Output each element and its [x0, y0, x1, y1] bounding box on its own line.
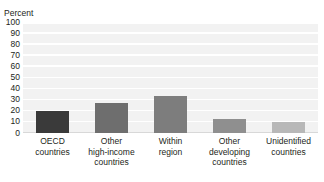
x-tick-label-line: Within	[141, 136, 200, 147]
x-tick-label: OECDcountries	[23, 136, 82, 157]
y-tick-label: 50	[0, 73, 20, 82]
x-tick-label-line: OECD	[23, 136, 82, 147]
x-tick-label: Otherdevelopingcountries	[200, 136, 259, 168]
y-tick-label: 70	[0, 51, 20, 60]
bar-series	[23, 22, 318, 133]
x-tick-label-line: countries	[82, 157, 141, 168]
y-tick-label: 90	[0, 29, 20, 38]
y-tick-label: 10	[0, 117, 20, 126]
x-tick-label-line: high-income	[82, 147, 141, 158]
x-tick-label-line: developing	[200, 147, 259, 158]
chart-figure: Percent 1009080706050403020100 OECDcount…	[0, 0, 324, 182]
x-tick-label-line: Unidentified	[259, 136, 318, 147]
y-tick-label: 80	[0, 40, 20, 49]
bar	[95, 103, 128, 133]
y-tick-label: 60	[0, 62, 20, 71]
y-axis-ticks: 1009080706050403020100	[0, 22, 20, 133]
bar	[272, 122, 305, 133]
bar	[36, 111, 69, 133]
x-tick-label: Otherhigh-incomecountries	[82, 136, 141, 168]
x-tick-label-line: region	[141, 147, 200, 158]
x-tick-label-line: countries	[259, 147, 318, 158]
y-tick-label: 40	[0, 84, 20, 93]
chart-title	[0, 0, 324, 1]
y-tick-label: 20	[0, 106, 20, 115]
x-tick-label-line: countries	[23, 147, 82, 158]
bar	[154, 96, 187, 133]
x-tick-label-line: Other	[82, 136, 141, 147]
y-tick-label: 100	[0, 18, 20, 27]
bar	[213, 119, 246, 133]
y-tick-label: 0	[0, 129, 20, 138]
x-tick-label-line: countries	[200, 157, 259, 168]
x-axis-categories: OECDcountriesOtherhigh-incomecountriesWi…	[23, 136, 318, 182]
x-tick-label: Withinregion	[141, 136, 200, 157]
x-tick-label-line: Other	[200, 136, 259, 147]
x-tick-label: Unidentifiedcountries	[259, 136, 318, 157]
y-tick-label: 30	[0, 95, 20, 104]
